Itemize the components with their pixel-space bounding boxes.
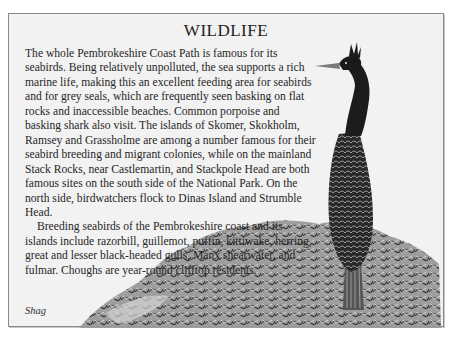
paragraph: Breeding seabirds of the Pembrokeshire c… — [25, 220, 317, 278]
wildlife-panel: WILDLIFE The whole Pembrokeshire Coast P… — [8, 13, 444, 327]
article-body: The whole Pembrokeshire Coast Path is fa… — [25, 47, 317, 278]
page-title: WILDLIFE — [9, 21, 443, 41]
paragraph: The whole Pembrokeshire Coast Path is fa… — [25, 47, 317, 220]
illustration-caption: Shag — [25, 305, 46, 316]
